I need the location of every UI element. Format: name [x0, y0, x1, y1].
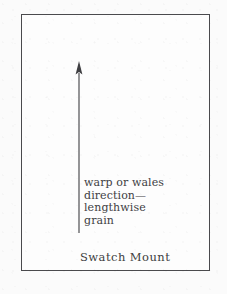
annotation-line-4: grain — [84, 215, 206, 228]
figure-caption: Swatch Mount — [80, 250, 170, 264]
annotation-line-3: lengthwise — [84, 202, 206, 215]
grain-direction-arrow — [22, 15, 211, 272]
arrowhead-icon — [76, 61, 83, 75]
annotation-line-1: warp or wales — [84, 177, 206, 190]
grain-annotation-text: warp or wales direction— lengthwise grai… — [84, 177, 206, 227]
swatch-mount-frame: warp or wales direction— lengthwise grai… — [21, 14, 210, 271]
